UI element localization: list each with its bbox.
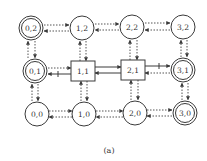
node-label: 1,0: [78, 110, 90, 119]
edges-row-2: [44, 23, 170, 31]
node-0-2: 0,2: [19, 16, 43, 40]
node-2-0: 2,0: [123, 101, 147, 125]
node-label: 0,0: [31, 110, 43, 119]
node-label: 1,1: [77, 67, 89, 76]
edges-row-0: [49, 110, 172, 117]
node-3-1: 3,1: [171, 58, 195, 82]
node-label: 1,2: [76, 24, 88, 33]
node-3-0: 3,0: [173, 101, 197, 125]
node-3-2: 3,2: [171, 15, 195, 39]
node-label: 3,0: [179, 109, 191, 118]
node-label: 2,0: [129, 109, 141, 118]
edges-row-1: [48, 63, 170, 77]
state-diagram: 0,2 1,2 2,2 3,2 0,1 1,1 2,1 3,1 0,0 1,0: [0, 0, 207, 161]
node-0-0: 0,0: [25, 102, 49, 126]
node-label: 3,2: [177, 23, 189, 32]
node-label: 2,2: [126, 23, 138, 32]
node-1-2: 1,2: [70, 16, 94, 40]
node-0-1: 0,1: [23, 59, 47, 83]
node-label: 0,2: [25, 24, 37, 33]
node-2-1: 2,1: [121, 60, 145, 80]
node-label: 2,1: [127, 66, 139, 75]
node-1-0: 1,0: [72, 102, 96, 126]
edges-vertical: [28, 40, 188, 101]
figure-caption: (a): [103, 146, 114, 155]
node-label: 3,1: [177, 66, 189, 75]
node-1-1: 1,1: [71, 61, 95, 81]
node-2-2: 2,2: [120, 15, 144, 39]
node-label: 0,1: [29, 67, 41, 76]
